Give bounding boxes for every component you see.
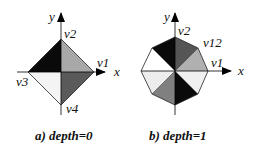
panel-b: y x v2 v12 v1 b) depth=1 [141,9,244,143]
vertex-v12-label: v12 [203,35,222,50]
x-axis-label: x [237,63,244,78]
vertex-v4-label: v4 [66,101,79,116]
vertex-v2-label: v2 [178,23,191,38]
y-axis-label: y [162,9,170,24]
vertex-v3-label: v3 [16,74,29,89]
x-axis-label: x [113,64,120,79]
caption-a: a) depth=0 [35,128,93,143]
caption-b: b) depth=1 [149,128,207,143]
vertex-v1-label: v1 [211,55,223,70]
vertex-v2-label: v2 [64,26,77,41]
vertex-v1-label: v1 [97,55,109,70]
figure: y x v2 v1 v3 v4 a) depth=0 y x v2 v12 v1… [0,0,257,158]
y-axis-label: y [47,9,55,24]
panel-a: y x v2 v1 v3 v4 a) depth=0 [16,9,120,143]
